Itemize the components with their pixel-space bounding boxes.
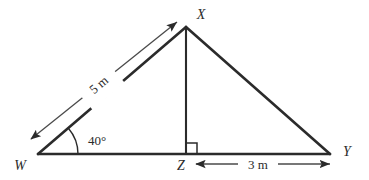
angle-label-w: 40° [88, 133, 106, 148]
vertex-label-x: X [196, 7, 206, 22]
vertex-label-z: Z [177, 158, 185, 173]
right-angle-marker [186, 143, 197, 154]
vertex-label-y: Y [343, 144, 353, 159]
side-xy [186, 27, 330, 154]
vertex-label-w: W [14, 158, 27, 173]
geometry-canvas: W X Y Z 40° 5 m 3 m [0, 0, 369, 180]
angle-arc-w [68, 128, 78, 154]
measure-label-zy: 3 m [248, 157, 268, 172]
geometry-figure: W X Y Z 40° 5 m 3 m [0, 0, 369, 180]
